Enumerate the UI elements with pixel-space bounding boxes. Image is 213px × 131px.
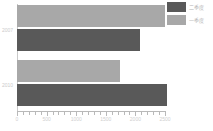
legend-swatch-dark xyxy=(167,2,186,12)
x-tick xyxy=(94,112,95,115)
bar-2010-series-1[interactable] xyxy=(17,60,120,82)
legend-label-0: 二季度 xyxy=(189,4,204,10)
x-tick xyxy=(124,112,125,115)
x-tick xyxy=(147,112,148,115)
x-tick xyxy=(41,112,42,115)
x-tick xyxy=(88,112,89,115)
x-tick-label: 1000 xyxy=(71,116,82,122)
x-tick xyxy=(141,112,142,115)
x-tick xyxy=(70,112,71,115)
plot-area xyxy=(17,4,165,111)
x-tick xyxy=(64,112,65,115)
y-tick-label: 2010 xyxy=(2,82,13,88)
x-tick-label: 2500 xyxy=(159,116,170,122)
bar-2007-series-0[interactable] xyxy=(17,29,140,51)
x-tick xyxy=(159,112,160,115)
x-tick xyxy=(53,112,54,115)
y-tick-label: 2007 xyxy=(2,27,13,33)
x-tick xyxy=(118,112,119,115)
legend-item-1[interactable]: 一季度 xyxy=(167,15,212,26)
x-tick xyxy=(35,112,36,115)
bar-group-2007 xyxy=(17,5,165,55)
legend-label-1: 一季度 xyxy=(189,17,204,23)
x-tick xyxy=(23,112,24,115)
x-tick xyxy=(153,112,154,115)
legend-swatch-light xyxy=(167,15,186,25)
x-tick-label: 1500 xyxy=(100,116,111,122)
chart-legend: 二季度 一季度 xyxy=(167,2,212,28)
x-tick xyxy=(129,112,130,115)
x-tick-label: 2000 xyxy=(130,116,141,122)
x-tick xyxy=(100,112,101,115)
x-tick-label: 500 xyxy=(42,116,50,122)
x-tick xyxy=(82,112,83,115)
bar-group-2010 xyxy=(17,60,165,110)
x-tick xyxy=(58,112,59,115)
x-axis-line xyxy=(17,111,166,112)
bar-2010-series-0[interactable] xyxy=(17,84,167,106)
x-tick-label: 0 xyxy=(16,116,19,122)
bar-2007-series-1[interactable] xyxy=(17,5,165,27)
legend-item-0[interactable]: 二季度 xyxy=(167,2,212,13)
x-tick xyxy=(29,112,30,115)
x-tick xyxy=(112,112,113,115)
bar-chart: 05001000150020002500 20072010 二季度 一季度 xyxy=(0,0,213,131)
